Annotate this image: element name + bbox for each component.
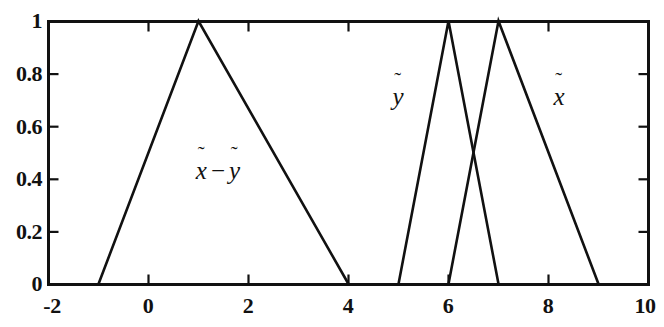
- minus-operator: −: [207, 157, 229, 184]
- series-line-x-tilde: [449, 21, 599, 284]
- curve-label-y-tilde: y ˜: [392, 84, 403, 109]
- plot-frame: [49, 22, 649, 285]
- x-tick-label-0: 0: [143, 295, 154, 317]
- y-tick-label-0-8: 0.8: [0, 63, 42, 85]
- x-tick-label-minus-2: -2: [43, 295, 60, 317]
- tilde-accent-icon: ˜: [231, 144, 238, 165]
- y-tick-label-1: 1: [0, 10, 42, 32]
- curve-label-x-tilde: x ˜: [553, 84, 564, 109]
- series-line-y-tilde: [399, 21, 499, 284]
- x-tilde-glyph: x ˜: [196, 158, 207, 183]
- y-tick-label-0: 0: [0, 273, 42, 295]
- x-tick-label-10: 10: [635, 295, 656, 317]
- figure-root: 1 0.8 0.6 0.4 0.2 0 -2 0 2 4 6 8 10 x ˜ …: [0, 0, 664, 327]
- curve-label-x-tilde-minus-y-tilde: x ˜ − y ˜: [196, 158, 240, 183]
- x-tick-label-6: 6: [443, 295, 454, 317]
- plot-canvas: [0, 0, 664, 327]
- y-tilde-glyph: y ˜: [392, 84, 403, 109]
- x-tick-label-4: 4: [343, 295, 354, 317]
- tilde-accent-icon: ˜: [394, 70, 401, 91]
- tilde-accent-icon: ˜: [555, 70, 562, 91]
- tilde-accent-icon: ˜: [198, 144, 205, 165]
- y-tilde-glyph: y ˜: [229, 158, 240, 183]
- y-tick-label-0-2: 0.2: [0, 221, 42, 243]
- y-tick-label-0-4: 0.4: [0, 168, 42, 190]
- x-tick-label-8: 8: [543, 295, 554, 317]
- series-line-x-tilde-minus-y-tilde: [99, 21, 349, 284]
- x-tick-label-2: 2: [243, 295, 254, 317]
- x-tilde-glyph: x ˜: [553, 84, 564, 109]
- y-tick-label-0-6: 0.6: [0, 116, 42, 138]
